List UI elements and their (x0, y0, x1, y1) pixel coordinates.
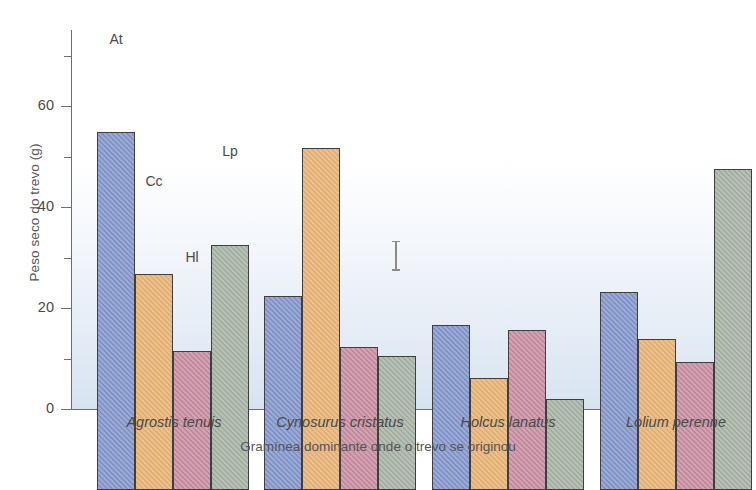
category-label-cynosurus-cristatus: Cynosurus cristatus (264, 414, 416, 430)
bar-annotation-cc: Cc (134, 173, 174, 189)
error-bar (392, 241, 400, 271)
error-bar-stem (395, 241, 396, 271)
bar-g3-at (600, 292, 638, 490)
figure-bar-chart: Peso seco do trevo (g) 60 40 20 0 At Cc … (0, 0, 756, 490)
y-tick-major-60 (61, 106, 71, 107)
y-tick-major-40 (61, 207, 71, 208)
bar-annotation-at: At (96, 31, 136, 47)
y-tick-major-0 (61, 409, 71, 410)
x-axis-title: Gramínea dominante onde o trevo se origi… (0, 439, 756, 454)
bar-g2-hl (508, 330, 546, 490)
bar-g2-at (432, 325, 470, 490)
y-tick-minor-10 (64, 359, 71, 360)
y-tick-label-40: 40 (14, 198, 54, 214)
bar-g0-cc (135, 274, 173, 490)
y-tick-label-20: 20 (14, 299, 54, 315)
error-bar-cap-bottom (392, 269, 400, 270)
bar-g1-at (264, 296, 302, 490)
y-tick-minor-30 (64, 258, 71, 259)
category-label-lolium-perenne: Lolium perenne (600, 414, 752, 430)
y-tick-minor-50 (64, 157, 71, 158)
bar-g0-at (97, 132, 135, 490)
y-tick-label-60: 60 (14, 97, 54, 113)
category-label-holcus-lanatus: Holcus lanatus (432, 414, 584, 430)
category-label-agrostis-tenuis: Agrostis tenuis (98, 414, 250, 430)
bar-annotation-lp: Lp (210, 143, 250, 159)
bar-g2-cc (470, 378, 508, 490)
bar-annotation-hl: Hl (172, 249, 212, 265)
y-tick-minor-70 (64, 56, 71, 57)
y-tick-major-20 (61, 308, 71, 309)
y-axis-line (71, 30, 72, 410)
y-tick-label-0: 0 (14, 400, 54, 416)
